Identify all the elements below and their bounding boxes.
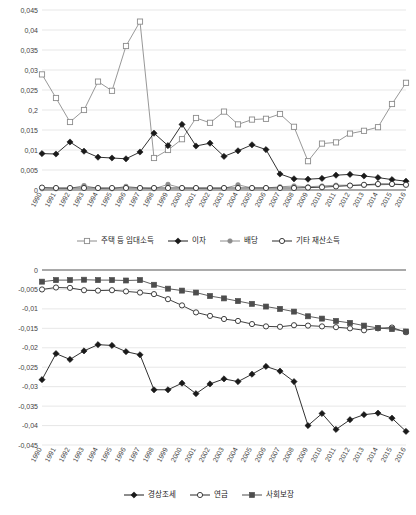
data-point-marker bbox=[137, 290, 142, 295]
data-point-marker bbox=[39, 377, 45, 383]
legend-item-label: 경상조세 bbox=[148, 491, 176, 499]
data-point-marker bbox=[249, 117, 254, 122]
data-point-marker bbox=[319, 185, 324, 190]
data-point-marker bbox=[403, 182, 408, 187]
x-axis-tick-label: 2013 bbox=[351, 191, 365, 208]
data-point-marker bbox=[124, 278, 129, 283]
data-point-marker bbox=[361, 412, 367, 418]
data-point-marker bbox=[319, 141, 324, 146]
data-point-marker bbox=[279, 238, 284, 243]
y-axis-tick-label: -0,005 bbox=[18, 286, 38, 293]
data-point-marker bbox=[375, 181, 380, 186]
data-point-marker bbox=[165, 185, 170, 190]
x-axis-tick-label: 2007 bbox=[267, 446, 281, 463]
data-point-marker bbox=[84, 238, 89, 243]
data-point-marker bbox=[249, 321, 254, 326]
legend-item[interactable]: 연금 bbox=[189, 490, 228, 500]
x-axis-tick-label: 1992 bbox=[57, 191, 71, 208]
legend-item[interactable]: 기타 재산소득 bbox=[271, 236, 340, 246]
data-point-marker bbox=[96, 278, 101, 283]
data-point-marker bbox=[165, 387, 171, 393]
series-3 bbox=[40, 277, 409, 334]
data-point-marker bbox=[53, 351, 59, 357]
data-point-marker bbox=[109, 288, 114, 293]
data-point-marker bbox=[95, 185, 100, 190]
data-point-marker bbox=[151, 185, 156, 190]
legend-item-label: 사회보장 bbox=[266, 491, 294, 499]
data-point-marker bbox=[207, 120, 212, 125]
legend-marker-icon bbox=[123, 490, 145, 500]
series-2 bbox=[39, 121, 409, 184]
data-point-marker bbox=[221, 185, 226, 190]
x-axis-tick-label: 2005 bbox=[239, 191, 253, 208]
legend-item-label: 연금 bbox=[214, 491, 228, 499]
x-axis-tick-label: 2007 bbox=[267, 191, 281, 208]
data-point-marker bbox=[110, 278, 115, 283]
x-axis-tick-label: 2004 bbox=[225, 446, 239, 463]
data-point-marker bbox=[138, 278, 143, 283]
y-axis-tick-label: -0,03 bbox=[22, 383, 38, 390]
legend-item[interactable]: 사회보장 bbox=[241, 490, 294, 500]
data-point-marker bbox=[305, 176, 311, 182]
series-4 bbox=[39, 181, 408, 190]
x-axis-tick-label: 2006 bbox=[253, 191, 267, 208]
data-point-marker bbox=[123, 289, 128, 294]
legend-item[interactable]: 경상조세 bbox=[123, 490, 176, 500]
data-point-marker bbox=[180, 288, 185, 293]
data-point-marker bbox=[333, 325, 338, 330]
x-axis-tick-label: 2011 bbox=[324, 191, 337, 208]
data-point-marker bbox=[250, 301, 255, 306]
x-axis-tick-label: 2015 bbox=[379, 191, 393, 208]
data-point-marker bbox=[333, 140, 338, 145]
data-point-marker bbox=[221, 109, 226, 114]
chart-panel-transfers-and-taxes: 0-0,005-0,01-0,015-0,02-0,025-0,03-0,035… bbox=[0, 262, 416, 515]
x-axis-tick-label: 2005 bbox=[239, 446, 253, 463]
legend-item-label: 기타 재산소득 bbox=[296, 237, 340, 245]
y-axis-tick-label: 0,035 bbox=[20, 47, 38, 54]
data-point-marker bbox=[193, 185, 198, 190]
x-axis-tick-label: 2002 bbox=[197, 191, 211, 208]
data-point-marker bbox=[221, 376, 227, 382]
x-axis-tick-label: 1992 bbox=[57, 446, 71, 463]
legend-item[interactable]: 주택 등 임대소득 bbox=[76, 236, 154, 246]
y-axis-tick-label: 0 bbox=[34, 267, 38, 274]
data-point-marker bbox=[235, 185, 240, 190]
data-point-marker bbox=[81, 107, 86, 112]
data-point-marker bbox=[67, 119, 72, 124]
data-point-marker bbox=[179, 185, 184, 190]
data-point-marker bbox=[109, 155, 115, 161]
x-axis-tick-label: 1996 bbox=[113, 191, 127, 208]
figure-container: 00,0050,010,0150,20,0250,030,0350,040,04… bbox=[0, 0, 416, 515]
data-point-marker bbox=[235, 379, 241, 385]
data-point-marker bbox=[175, 238, 181, 244]
data-point-marker bbox=[375, 175, 381, 181]
data-point-marker bbox=[95, 79, 100, 84]
x-axis-tick-label: 1997 bbox=[127, 191, 141, 208]
data-point-marker bbox=[95, 342, 101, 348]
legend-item-label: 이자 bbox=[192, 237, 206, 245]
data-point-marker bbox=[334, 318, 339, 323]
x-axis-tick-label: 2008 bbox=[281, 446, 295, 463]
data-point-marker bbox=[403, 80, 408, 85]
x-axis-tick-labels: 1990199119921993199419951996199719981999… bbox=[29, 446, 407, 463]
data-point-marker bbox=[109, 185, 114, 190]
legend-item[interactable]: 이자 bbox=[167, 236, 206, 246]
data-point-marker bbox=[95, 288, 100, 293]
x-axis-tick-label: 2013 bbox=[351, 446, 365, 463]
x-axis-tick-label: 1994 bbox=[85, 191, 99, 208]
data-point-marker bbox=[207, 185, 212, 190]
transfers-and-taxes-chart-svg: 0-0,005-0,01-0,015-0,02-0,025-0,03-0,035… bbox=[0, 262, 416, 487]
x-axis-tick-label: 2010 bbox=[309, 191, 323, 208]
x-axis-tick-label: 1998 bbox=[141, 191, 155, 208]
series-2 bbox=[39, 285, 408, 335]
plot-area-property-income: 00,0050,010,0150,20,0250,030,0350,040,04… bbox=[0, 0, 416, 232]
legend-item[interactable]: 배당 bbox=[219, 236, 258, 246]
x-axis-tick-label: 2006 bbox=[253, 446, 267, 463]
data-point-marker bbox=[236, 299, 241, 304]
data-point-marker bbox=[305, 159, 310, 164]
data-point-marker bbox=[67, 356, 73, 362]
data-point-marker bbox=[194, 290, 199, 295]
data-point-marker bbox=[347, 326, 352, 331]
data-point-marker bbox=[39, 151, 45, 157]
y-axis-tick-label: 0,045 bbox=[20, 7, 38, 14]
